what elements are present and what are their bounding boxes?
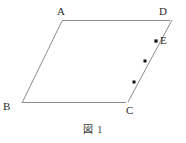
point-marker-3 bbox=[133, 81, 136, 84]
edge-AD bbox=[62, 20, 172, 21]
point-marker-2 bbox=[144, 60, 147, 63]
edge-DC bbox=[128, 20, 172, 102]
figure-container: A D B C E 図 1 bbox=[0, 0, 186, 143]
vertex-label-a: A bbox=[57, 6, 65, 17]
edge-BA bbox=[22, 21, 62, 103]
vertex-label-c: C bbox=[126, 105, 134, 116]
edge-CB bbox=[22, 102, 128, 103]
point-marker-E bbox=[154, 39, 157, 42]
vertex-label-d: D bbox=[159, 6, 167, 17]
vertex-label-b: B bbox=[3, 101, 11, 112]
figure-caption: 図 1 bbox=[0, 124, 186, 136]
point-label-e: E bbox=[160, 35, 167, 46]
parallelogram-diagram bbox=[0, 0, 186, 143]
